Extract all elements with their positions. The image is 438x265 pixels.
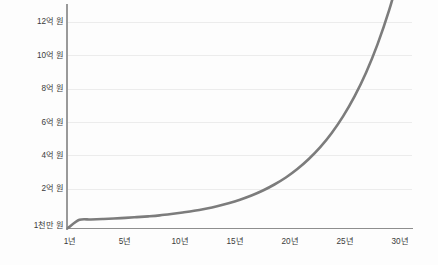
x-tick-label-5y: 5년 (119, 238, 131, 246)
gridline-8 (67, 89, 412, 90)
y-axis-line (66, 4, 68, 230)
x-tick-label-10y: 10년 (172, 238, 189, 246)
x-tick-label-20y: 20년 (282, 238, 299, 246)
chart-root: 12억 원 10억 원 8억 원 6억 원 4억 원 2억 원 1천만 원 1년… (0, 0, 438, 265)
y-tick-label-10eok: 10억 원 (2, 52, 64, 60)
gridline-2 (67, 189, 412, 190)
x-axis-line (66, 228, 413, 229)
x-tick-label-15y: 15년 (227, 238, 244, 246)
x-tick-label-30y: 30년 (392, 238, 409, 246)
gridline-10 (67, 55, 412, 56)
x-tick-label-1y: 1년 (64, 238, 76, 246)
growth-curve-line (68, 0, 401, 228)
gridline-6 (67, 122, 412, 123)
y-tick-label-4eok: 4억 원 (2, 152, 64, 160)
y-tick-label-6eok: 6억 원 (2, 119, 64, 127)
y-tick-label-1cheonman: 1천만 원 (2, 222, 64, 230)
y-tick-label-12eok: 12억 원 (2, 18, 64, 26)
y-tick-label-8eok: 8억 원 (2, 85, 64, 93)
x-tick-label-25y: 25년 (337, 238, 354, 246)
gridline-4 (67, 155, 412, 156)
gridline-12 (67, 22, 412, 23)
y-tick-label-2eok: 2억 원 (2, 185, 64, 193)
